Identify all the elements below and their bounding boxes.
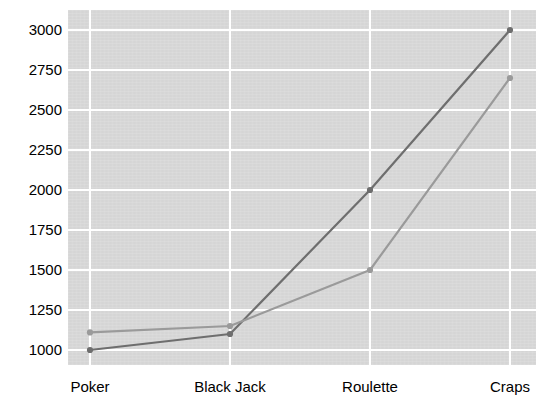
data-point-marker bbox=[87, 347, 93, 353]
data-point-marker bbox=[367, 267, 373, 273]
data-point-marker bbox=[367, 187, 373, 193]
series-line-series-1 bbox=[90, 30, 510, 350]
data-point-marker bbox=[507, 75, 513, 81]
series-layer bbox=[0, 0, 544, 417]
data-point-marker bbox=[227, 323, 233, 329]
series-line-series-2 bbox=[90, 78, 510, 332]
line-chart: 100012501500175020002250250027503000 Pok… bbox=[0, 0, 544, 417]
data-point-marker bbox=[507, 27, 513, 33]
data-point-marker bbox=[87, 329, 93, 335]
data-point-marker bbox=[227, 331, 233, 337]
